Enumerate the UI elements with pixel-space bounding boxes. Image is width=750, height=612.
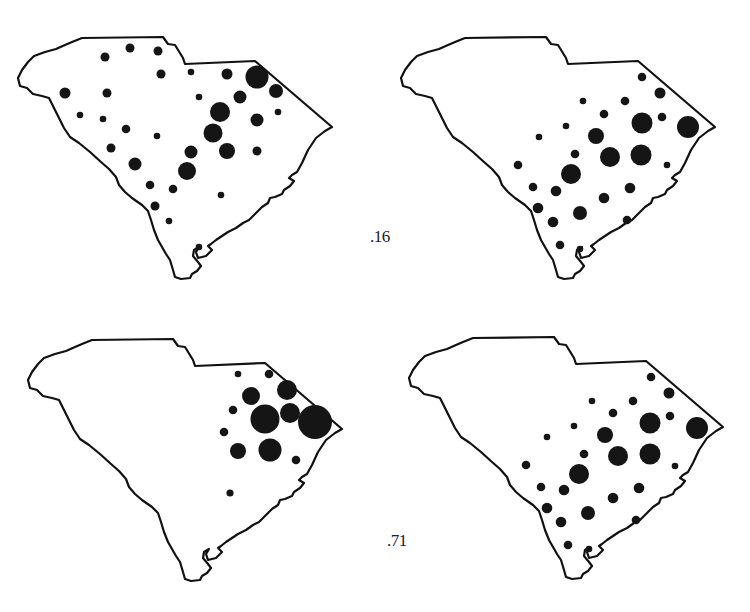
proportional-symbol <box>640 444 661 465</box>
proportional-symbol <box>60 88 71 99</box>
proportional-symbol <box>600 147 620 167</box>
proportional-symbol <box>298 405 332 439</box>
proportional-symbol <box>561 164 581 184</box>
map-bottom-left <box>0 306 375 612</box>
proportional-symbol <box>577 246 584 253</box>
proportional-symbol <box>533 203 544 214</box>
proportional-symbol <box>126 44 135 53</box>
map-svg <box>375 0 750 306</box>
proportional-symbol <box>634 483 645 494</box>
proportional-symbol <box>146 181 155 190</box>
proportional-symbol <box>588 128 604 144</box>
proportional-symbol <box>275 109 282 116</box>
proportional-symbol <box>292 456 301 465</box>
proportional-symbol <box>218 192 225 199</box>
proportional-symbol <box>632 516 641 525</box>
proportional-symbol <box>631 145 652 166</box>
proportional-symbol <box>259 439 282 462</box>
proportional-symbol <box>537 483 546 492</box>
proportional-symbol <box>586 546 593 553</box>
proportional-symbol <box>544 434 551 441</box>
proportional-symbol <box>185 146 198 159</box>
proportional-symbol <box>154 47 163 56</box>
proportional-symbol <box>625 183 636 194</box>
proportional-symbol <box>600 110 609 119</box>
proportional-symbol <box>196 94 203 101</box>
proportional-symbol <box>122 125 131 134</box>
proportional-symbol <box>623 216 632 225</box>
proportional-symbol <box>569 464 589 484</box>
proportional-symbol <box>229 406 238 415</box>
proportional-symbol <box>629 397 638 406</box>
proportional-symbol <box>664 388 675 399</box>
proportional-symbol <box>269 84 283 98</box>
proportional-symbol <box>529 183 538 192</box>
proportional-symbol <box>536 134 543 141</box>
proportional-symbol <box>166 218 173 225</box>
map-top-right <box>375 0 750 306</box>
proportional-symbol <box>621 97 630 106</box>
coefficient-label-top: .16 <box>370 227 390 247</box>
proportional-symbol <box>220 428 229 437</box>
proportional-symbol <box>157 70 166 79</box>
proportional-symbol <box>514 161 523 170</box>
proportional-symbol <box>571 423 578 430</box>
proportional-symbol <box>556 241 565 250</box>
proportional-symbol <box>253 147 262 156</box>
proportional-symbol <box>169 185 178 194</box>
proportional-symbol <box>204 124 223 143</box>
proportional-symbol <box>222 69 233 80</box>
proportional-symbol <box>581 506 595 520</box>
proportional-symbol <box>251 114 264 127</box>
proportional-symbol <box>77 112 84 119</box>
proportional-symbol <box>686 417 708 439</box>
proportional-symbol <box>556 517 567 528</box>
proportional-symbol <box>542 503 553 514</box>
proportional-symbol <box>658 113 667 122</box>
proportional-symbol <box>235 371 242 378</box>
proportional-symbol <box>589 398 596 405</box>
proportional-symbol <box>580 450 589 459</box>
proportional-symbol <box>597 427 613 443</box>
map-top-left <box>0 0 375 306</box>
proportional-symbol <box>234 91 247 104</box>
proportional-symbol <box>571 150 580 159</box>
proportional-symbol <box>154 133 161 140</box>
proportional-symbol <box>580 98 587 105</box>
proportional-symbol <box>101 53 110 62</box>
proportional-symbol <box>226 489 233 496</box>
proportional-symbol <box>277 380 297 400</box>
proportional-symbol <box>100 116 107 123</box>
proportional-symbol <box>638 73 647 82</box>
south-carolina-outline <box>18 37 332 279</box>
map-svg <box>0 0 375 306</box>
proportional-symbol <box>664 162 671 169</box>
proportional-symbol <box>573 206 587 220</box>
proportional-symbol <box>280 403 300 423</box>
proportional-symbol <box>196 244 203 251</box>
proportional-symbol <box>608 493 619 504</box>
proportional-symbol <box>210 102 230 122</box>
proportional-symbol <box>677 116 699 138</box>
proportional-symbol <box>178 162 196 180</box>
proportional-symbol <box>107 144 116 153</box>
proportional-symbol <box>522 461 531 470</box>
proportional-symbol <box>219 143 235 159</box>
state-outline <box>18 37 332 279</box>
proportional-symbol <box>666 412 675 421</box>
proportional-symbol <box>609 409 618 418</box>
map-bottom-right <box>375 306 750 612</box>
proportional-symbol <box>672 463 679 470</box>
coefficient-label-bottom: .71 <box>387 531 407 551</box>
proportional-symbol <box>551 186 562 197</box>
proportional-symbol <box>563 123 570 130</box>
proportional-symbol <box>251 405 280 434</box>
proportional-symbol <box>246 66 269 89</box>
proportional-symbol <box>548 217 559 228</box>
proportional-symbol <box>188 69 195 76</box>
proportional-symbol <box>564 541 573 550</box>
proportional-symbol <box>151 202 160 211</box>
proportional-symbol <box>640 413 661 434</box>
proportional-symbol <box>559 485 570 496</box>
proportional-symbol <box>647 373 656 382</box>
